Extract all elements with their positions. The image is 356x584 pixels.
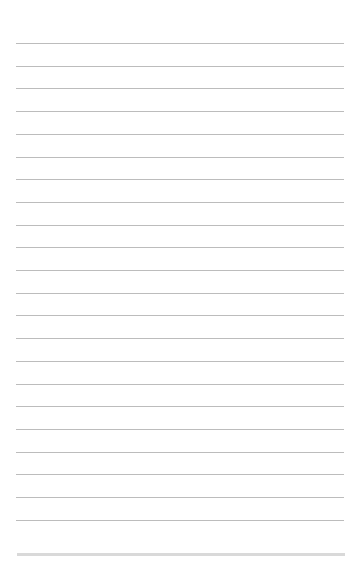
ruled-line: [16, 384, 344, 385]
ruled-line: [16, 338, 344, 339]
ruled-line: [16, 157, 344, 158]
lined-paper-page: [0, 0, 356, 584]
ruled-line: [16, 520, 344, 521]
ruled-line: [16, 361, 344, 362]
ruled-line: [16, 270, 344, 271]
ruled-line: [16, 202, 344, 203]
ruled-line: [16, 43, 344, 44]
bottom-margin-band: [17, 553, 345, 556]
ruled-line: [16, 179, 344, 180]
ruled-line: [16, 452, 344, 453]
ruled-line: [16, 66, 344, 67]
ruled-line: [16, 315, 344, 316]
ruled-line: [16, 134, 344, 135]
ruled-line: [16, 474, 344, 475]
ruled-line: [16, 247, 344, 248]
ruled-line: [16, 293, 344, 294]
ruled-line: [16, 225, 344, 226]
ruled-line: [16, 88, 344, 89]
ruled-line: [16, 497, 344, 498]
ruled-line: [16, 406, 344, 407]
ruled-line: [16, 429, 344, 430]
ruled-line: [16, 111, 344, 112]
